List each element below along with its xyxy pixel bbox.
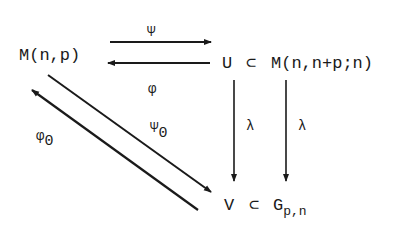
psi0-subscript: 0 (158, 125, 167, 142)
grassmannian-subscript: p,n (283, 204, 306, 219)
subset-symbol-bottom: ⊂ (249, 197, 259, 214)
node-m-n-p: M(n,p) (19, 47, 80, 64)
node-u: U (222, 55, 232, 72)
label-phi: φ (148, 82, 156, 96)
arrow-phi0 (32, 90, 198, 210)
label-psi0: Ψ0 (150, 121, 167, 136)
label-phi0: φ0 (36, 129, 53, 144)
node-grassmannian: Gp,n (273, 197, 307, 214)
arrow-psi0 (48, 75, 211, 192)
label-lambda-left: λ (246, 119, 254, 133)
commutative-diagram: M(n,p) U ⊂ M(n,n+p;n) V ⊂ Gp,n Ψ φ λ λ Ψ… (0, 0, 418, 234)
node-v: V (224, 197, 234, 214)
grassmannian-base: G (273, 196, 283, 215)
label-psi: Ψ (147, 25, 155, 39)
node-m-n-np-n: M(n,n+p;n) (271, 55, 373, 72)
label-lambda-right: λ (298, 119, 306, 133)
arrows-layer (0, 0, 418, 234)
phi0-subscript: 0 (44, 133, 53, 150)
subset-symbol-top: ⊂ (246, 55, 256, 72)
